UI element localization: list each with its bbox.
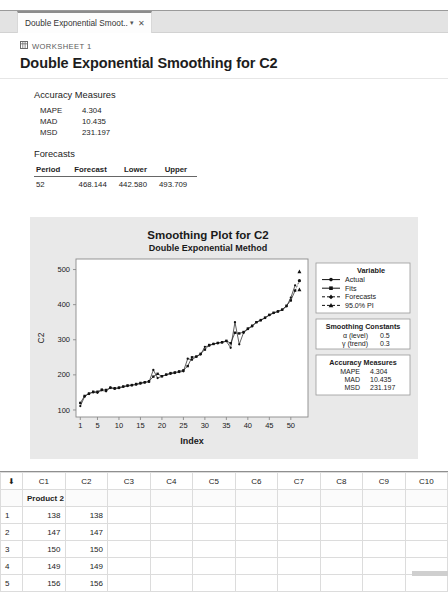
worksheet-cell[interactable]: 149 — [65, 558, 108, 575]
row-header — [1, 490, 23, 507]
column-name-cell[interactable] — [320, 490, 363, 507]
worksheet-cell[interactable] — [150, 558, 193, 575]
worksheet-cell[interactable] — [150, 524, 193, 541]
worksheet-cell[interactable]: 156 — [65, 575, 108, 592]
worksheet-cell[interactable] — [363, 558, 406, 575]
worksheet-cell[interactable] — [193, 524, 236, 541]
worksheet-cell[interactable] — [363, 507, 406, 524]
document-tab[interactable]: Double Exponential Smoot... ▾ ✕ — [17, 11, 152, 33]
worksheet-cell[interactable] — [320, 575, 363, 592]
column-header-c3[interactable]: C3 — [108, 473, 151, 490]
column-header-c7[interactable]: C7 — [278, 473, 321, 490]
worksheet-cell[interactable] — [150, 541, 193, 558]
worksheet-cell[interactable] — [108, 558, 151, 575]
worksheet-cell[interactable] — [235, 507, 278, 524]
column-name-cell[interactable] — [150, 490, 193, 507]
worksheet-cell[interactable] — [150, 507, 193, 524]
smoothing-plot-chart[interactable]: Smoothing Plot for C2 Double Exponential… — [30, 217, 418, 459]
svg-text:300: 300 — [57, 335, 70, 344]
worksheet-cell[interactable] — [278, 541, 321, 558]
worksheet-cell[interactable] — [405, 507, 448, 524]
worksheet-cell[interactable] — [278, 558, 321, 575]
column-header-lower: Lower — [117, 164, 157, 177]
worksheet-grid[interactable]: ⬇ C1C2C3C4C5C6C7C8C9C10 Product 21138138… — [0, 471, 448, 576]
column-header-c8[interactable]: C8 — [320, 473, 363, 490]
select-all-arrow-icon[interactable]: ⬇ — [1, 473, 23, 490]
svg-text:Fits: Fits — [345, 285, 357, 293]
row-header[interactable]: 1 — [1, 507, 23, 524]
worksheet-cell[interactable] — [320, 558, 363, 575]
worksheet-cell[interactable] — [320, 541, 363, 558]
worksheet-cell[interactable] — [108, 507, 151, 524]
worksheet-cell[interactable] — [278, 524, 321, 541]
worksheet-cell[interactable]: 138 — [23, 507, 66, 524]
column-header-c10[interactable]: C10 — [405, 473, 448, 490]
worksheet-cell[interactable] — [235, 558, 278, 575]
worksheet-cell[interactable] — [193, 541, 236, 558]
column-name-cell[interactable]: Product 2 — [23, 490, 66, 507]
worksheet-cell[interactable]: 156 — [23, 575, 66, 592]
row-header[interactable]: 3 — [1, 541, 23, 558]
worksheet-cell[interactable] — [193, 558, 236, 575]
worksheet-cell[interactable] — [363, 575, 406, 592]
column-header-c6[interactable]: C6 — [235, 473, 278, 490]
column-header-c5[interactable]: C5 — [193, 473, 236, 490]
worksheet-cell[interactable] — [278, 575, 321, 592]
worksheet-cell[interactable] — [235, 524, 278, 541]
svg-text:100: 100 — [57, 406, 70, 415]
svg-text:50: 50 — [287, 421, 295, 430]
worksheet-cell[interactable] — [150, 575, 193, 592]
worksheet-cell[interactable]: 138 — [65, 507, 108, 524]
worksheet-cell[interactable] — [363, 541, 406, 558]
column-header-c1[interactable]: C1 — [23, 473, 66, 490]
column-name-cell[interactable] — [235, 490, 278, 507]
column-name-cell[interactable] — [363, 490, 406, 507]
worksheet-cell[interactable] — [193, 507, 236, 524]
svg-text:35: 35 — [222, 421, 230, 430]
worksheet-cell[interactable] — [108, 541, 151, 558]
page-title: Double Exponential Smoothing for C2 — [20, 55, 448, 71]
column-name-cell[interactable] — [278, 490, 321, 507]
cell-upper: 493.709 — [157, 177, 197, 192]
column-name-cell[interactable] — [65, 490, 108, 507]
output-pane: WORKSHEET 1 Double Exponential Smoothing… — [0, 33, 448, 471]
column-header-c4[interactable]: C4 — [150, 473, 193, 490]
row-header[interactable]: 2 — [1, 524, 23, 541]
worksheet-cell[interactable] — [235, 541, 278, 558]
worksheet-cell[interactable]: 150 — [23, 541, 66, 558]
svg-text:30: 30 — [201, 421, 209, 430]
worksheet-cell[interactable] — [320, 524, 363, 541]
worksheet-cell[interactable] — [278, 507, 321, 524]
worksheet-table[interactable]: ⬇ C1C2C3C4C5C6C7C8C9C10 Product 21138138… — [0, 472, 448, 592]
svg-text:MSD: MSD — [344, 384, 360, 391]
horizontal-scrollbar[interactable] — [412, 571, 448, 576]
svg-text:Variable: Variable — [357, 266, 385, 275]
chevron-down-icon[interactable]: ▾ — [128, 19, 138, 27]
worksheet-header-row: ⬇ C1C2C3C4C5C6C7C8C9C10 — [1, 473, 448, 490]
worksheet-cell[interactable] — [363, 524, 406, 541]
worksheet-cell[interactable] — [405, 541, 448, 558]
svg-text:20: 20 — [158, 421, 166, 430]
column-name-cell[interactable] — [108, 490, 151, 507]
worksheet-cell[interactable]: 149 — [23, 558, 66, 575]
worksheet-cell[interactable]: 147 — [23, 524, 66, 541]
accuracy-value: 231.197 — [82, 127, 110, 138]
worksheet-cell[interactable] — [108, 575, 151, 592]
worksheet-cell[interactable] — [108, 524, 151, 541]
close-icon[interactable]: ✕ — [138, 19, 147, 28]
column-name-cell[interactable] — [405, 490, 448, 507]
column-header-c2[interactable]: C2 — [65, 473, 108, 490]
worksheet-cell[interactable] — [193, 575, 236, 592]
row-header[interactable]: 5 — [1, 575, 23, 592]
worksheet-cell[interactable] — [320, 507, 363, 524]
worksheet-cell[interactable] — [405, 524, 448, 541]
worksheet-cell[interactable]: 150 — [65, 541, 108, 558]
accuracy-value: 10.435 — [82, 116, 110, 127]
column-name-cell[interactable] — [193, 490, 236, 507]
row-header[interactable]: 4 — [1, 558, 23, 575]
worksheet-cell[interactable] — [405, 575, 448, 592]
column-header-forecast: Forecast — [72, 164, 117, 177]
worksheet-cell[interactable]: 147 — [65, 524, 108, 541]
worksheet-cell[interactable] — [235, 575, 278, 592]
column-header-c9[interactable]: C9 — [363, 473, 406, 490]
